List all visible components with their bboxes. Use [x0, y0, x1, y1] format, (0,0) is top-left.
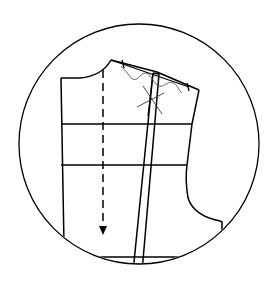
arrowhead-icon: [99, 226, 107, 235]
dart-top: [153, 73, 159, 74]
pattern-diagram: Bodice front pattern with shoulder seam …: [0, 0, 274, 286]
side-curve: [186, 165, 222, 232]
pattern-svg: [0, 0, 274, 286]
armhole-upper: [192, 90, 199, 124]
cross-mark-stroke-1: [143, 86, 162, 114]
circle-frame: [19, 24, 259, 264]
center-front-line: [61, 78, 64, 245]
armhole-middle: [187, 124, 192, 165]
